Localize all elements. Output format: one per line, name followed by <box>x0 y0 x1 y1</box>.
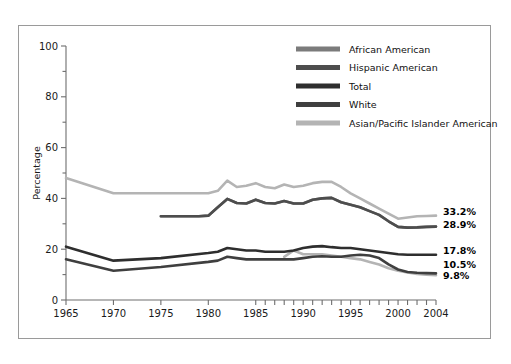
series-group <box>66 178 436 275</box>
series-end-label: 28.9% <box>443 219 476 230</box>
series-end-label: 9.8% <box>443 270 470 281</box>
legend-label: Hispanic American <box>349 62 438 73</box>
y-axis-tick-label: 40 <box>45 193 58 204</box>
y-axis-tick-label: 100 <box>39 41 58 52</box>
legend-swatch <box>296 84 340 89</box>
y-axis-tick-label: 60 <box>45 142 58 153</box>
y-axis-title: Percentage <box>31 146 42 200</box>
x-axis-tick-label: 1990 <box>290 308 315 319</box>
legend-swatch <box>296 121 340 126</box>
y-axis-tick-label: 80 <box>45 91 58 102</box>
chart-figure: 0204060801001965197019751980198519901995… <box>0 0 511 364</box>
legend-swatch <box>296 47 340 52</box>
legend-label: Asian/Pacific Islander American <box>349 118 498 129</box>
series-line <box>161 198 436 228</box>
legend-label: African American <box>349 44 430 55</box>
series-end-label: 17.8% <box>443 245 476 256</box>
x-axis-tick-label: 1995 <box>338 308 363 319</box>
line-chart: 0204060801001965197019751980198519901995… <box>0 0 511 364</box>
series-end-label: 10.5% <box>443 259 476 270</box>
x-axis-tick-label: 1970 <box>101 308 126 319</box>
y-axis-tick-label: 0 <box>52 295 58 306</box>
x-axis-tick-label: 1985 <box>243 308 268 319</box>
y-axis-tick-label: 20 <box>45 244 58 255</box>
legend-swatch <box>296 65 340 70</box>
x-axis-tick-label: 1965 <box>53 308 78 319</box>
series-end-label: 33.2% <box>443 206 476 217</box>
end-labels: 33.2%28.9%17.8%10.5%9.8% <box>443 206 476 281</box>
legend: African AmericanHispanic AmericanTotalWh… <box>296 44 498 129</box>
x-axis-tick-label: 2004 <box>423 308 448 319</box>
axes: 0204060801001965197019751980198519901995… <box>31 41 449 320</box>
legend-label: Total <box>348 81 371 92</box>
legend-label: White <box>349 99 377 110</box>
series-line <box>66 178 436 219</box>
x-axis-tick-label: 1980 <box>196 308 221 319</box>
legend-swatch <box>296 102 340 107</box>
x-axis-tick-label: 1975 <box>148 308 173 319</box>
x-axis-tick-label: 2000 <box>385 308 410 319</box>
